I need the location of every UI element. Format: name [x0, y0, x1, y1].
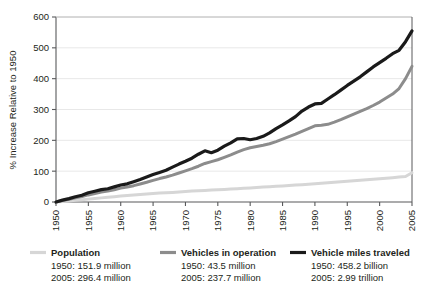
x-tick-label: 1995: [342, 210, 353, 231]
y-axis-title: % Increase Relative to 1950: [7, 51, 18, 170]
x-tick-label: 1975: [212, 210, 223, 231]
x-tick-label: 1960: [115, 210, 126, 231]
legend-value-1950: 1950: 43.5 million: [181, 260, 255, 271]
line-chart: 0100200300400500600 19501955196019651970…: [0, 0, 427, 297]
x-tick-label: 1970: [180, 210, 191, 231]
x-tick-label: 2000: [374, 210, 385, 231]
data-series: [56, 31, 412, 202]
gridlines: [56, 17, 412, 171]
x-tick-label: 1985: [277, 210, 288, 231]
x-tick-label: 1950: [50, 210, 61, 231]
y-axis-ticks: 0100200300400500600: [33, 11, 56, 207]
chart-legend: Population1950: 151.9 million2005: 296.4…: [30, 247, 410, 283]
y-tick-label: 300: [33, 104, 49, 115]
legend-series-name: Vehicles in operation: [181, 247, 276, 258]
legend-value-1950: 1950: 458.2 billion: [311, 260, 388, 271]
y-tick-label: 600: [33, 11, 49, 22]
y-tick-label: 500: [33, 42, 49, 53]
legend-value-2005: 2005: 296.4 million: [51, 272, 131, 283]
legend-value-2005: 2005: 237.7 million: [181, 272, 261, 283]
x-axis-ticks: 1950195519601965197019751980198519901995…: [50, 202, 417, 231]
legend-series-name: Population: [51, 247, 100, 258]
legend-value-2005: 2005: 2.99 trillion: [311, 272, 383, 283]
legend-series-name: Vehicle miles traveled: [311, 247, 410, 258]
x-tick-label: 2005: [406, 210, 417, 231]
y-tick-label: 400: [33, 73, 49, 84]
y-tick-label: 100: [33, 166, 49, 177]
x-tick-label: 1965: [147, 210, 158, 231]
x-tick-label: 1955: [83, 210, 94, 231]
legend-value-1950: 1950: 151.9 million: [51, 260, 131, 271]
x-tick-label: 1980: [245, 210, 256, 231]
x-tick-label: 1990: [309, 210, 320, 231]
chart-figure: 0100200300400500600 19501955196019651970…: [0, 0, 427, 297]
series-line-vehicle-miles-traveled: [56, 31, 412, 202]
y-tick-label: 0: [44, 196, 49, 207]
y-tick-label: 200: [33, 135, 49, 146]
